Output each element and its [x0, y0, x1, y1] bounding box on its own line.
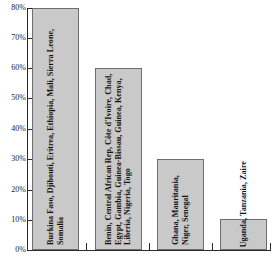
- plot-area: Burkina Faso, Djibouti, Eritrea, Ethiopi…: [0, 0, 272, 267]
- bar-4-label-wrap: Uganda, Tanzania, Zaire: [221, 161, 266, 247]
- bar-2[interactable]: Benin, Central African Rep, Côte d'Ivoir…: [95, 68, 142, 250]
- x-tick-mark-3: [212, 243, 213, 251]
- bar-3[interactable]: Ghana, Mauritania, Niger, Senegal: [157, 159, 204, 250]
- bar-1-label-wrap: Burkina Faso, Djibouti, Eritrea, Ethiopi…: [33, 11, 78, 249]
- bar-4[interactable]: Uganda, Tanzania, Zaire: [220, 219, 267, 250]
- x-tick-mark-1: [86, 243, 87, 251]
- bar-1[interactable]: Burkina Faso, Djibouti, Eritrea, Ethiopi…: [32, 8, 79, 250]
- bar-2-label: Benin, Central African Rep, Côte d'Ivoir…: [104, 69, 133, 249]
- bar-2-label-wrap: Benin, Central African Rep, Côte d'Ivoir…: [96, 69, 141, 249]
- bar-3-label: Ghana, Mauritania, Niger, Senegal: [171, 155, 190, 249]
- bar-1-label: Burkina Faso, Djibouti, Eritrea, Ethiopi…: [46, 11, 65, 249]
- bar-chart: 80% 70% 60% 50% 40% 30% 20% 10% 0% Burki…: [0, 0, 272, 267]
- bar-4-label: Uganda, Tanzania, Zaire: [239, 161, 249, 247]
- x-tick-mark-2: [149, 243, 150, 251]
- x-axis-end-cap: [270, 243, 271, 251]
- bar-3-label-wrap: Ghana, Mauritania, Niger, Senegal: [158, 155, 203, 249]
